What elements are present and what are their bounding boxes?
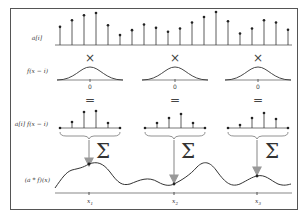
x-label-2: x2 [172,197,178,206]
signal-stem-dot [203,16,206,19]
label-product: a[i] f(x − i) [15,120,49,128]
sum-operator-1: Σ [96,139,110,163]
braces [60,132,288,139]
signal-stem-dot [287,29,290,32]
signal-stem-dot [167,31,170,34]
signal-stem-dot [83,14,86,17]
equals-operator-3: = [253,93,263,107]
multiply-operator-1: × [85,51,95,65]
multiply-operator-2: × [170,51,180,65]
product-row [59,110,290,130]
kernel-1 [57,67,123,82]
signal-stem-dot [215,11,218,14]
kernel-2 [142,67,208,82]
signal-stem-dot [275,21,278,24]
signal-stem-dot [251,27,254,30]
label-result: (a * f)(x) [25,176,51,184]
label-kernel: f(x − i) [26,67,49,75]
x-label-3: x3 [255,197,261,206]
sum-operator-3: Σ [265,139,279,163]
x-label-1: x1 [87,197,93,206]
signal-stem-dot [143,23,146,26]
kernel-center-label-1: 0 [88,83,92,90]
signal-stem-dot [227,20,230,23]
product-window-3 [227,112,290,130]
sum-arrows [85,140,261,183]
equals-operator-1: = [85,93,95,107]
signal-stem-dot [107,24,110,27]
label-signal: a[i] [32,34,43,41]
kernel-3 [225,67,291,82]
sum-operator-2: Σ [181,139,195,163]
equals-operator-2: = [170,93,180,107]
signal-stem-dot [71,19,74,22]
multiply-operator-3: × [253,51,263,65]
kernel-center-label-3: 0 [256,83,260,90]
signal-stem-dot [191,21,194,24]
signal-stem-dot [131,29,134,32]
signal-stem-dot [263,19,266,22]
kernel-center-label-2: 0 [173,83,177,90]
signal-stem-dot [59,26,62,29]
product-window-1 [59,110,122,130]
kernel-row [57,67,291,82]
signal-stem-dot [179,27,182,30]
signal-stem-dot [119,34,122,37]
signal-stem-plot [55,11,292,45]
signal-stem-dot [155,27,158,30]
convolution-diagram: a[i] f(x − i) a[i] f(x − i) (a * f)(x) ×… [0,0,306,220]
signal-stem-dot [239,32,242,35]
product-window-2 [144,113,207,130]
signal-stem-dot [95,12,98,15]
